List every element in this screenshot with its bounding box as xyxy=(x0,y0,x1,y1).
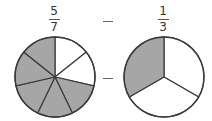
left-pie-chart xyxy=(15,37,95,117)
right-pie-chart xyxy=(124,37,204,117)
fraction-pie-diagram xyxy=(0,0,212,121)
